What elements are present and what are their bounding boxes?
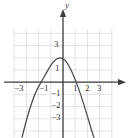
y-axis-arrow-icon [60, 9, 66, 17]
y-tick-label-pos1: 1 [55, 64, 60, 73]
graph-figure: −3 −1 1 2 3 3 1 −1 −2 −3 y [0, 0, 131, 138]
y-tick-label-pos3: 3 [54, 40, 59, 49]
x-tick-label-neg1: −1 [39, 84, 49, 93]
x-tick-label-pos2: 2 [85, 84, 90, 93]
x-tick-label-pos1: 1 [73, 84, 78, 93]
y-tick-label-neg1: −1 [51, 89, 61, 98]
y-tick-label-neg3: −3 [51, 113, 61, 122]
x-tick-label-pos3: 3 [97, 84, 102, 93]
x-axis-arrow-icon [118, 79, 126, 85]
y-tick-label-neg2: −2 [51, 101, 61, 110]
y-axis-label: y [65, 1, 69, 10]
coordinate-plane [0, 0, 131, 138]
x-tick-label-neg3: −3 [14, 84, 24, 93]
